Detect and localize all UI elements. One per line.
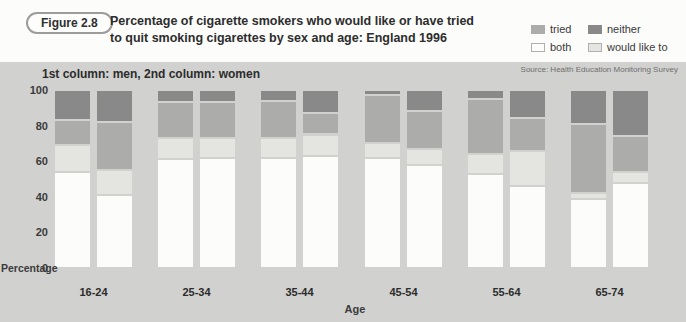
age-label-45-54: 45-54: [355, 286, 452, 298]
bar-men-45-54-tried-segment: [365, 96, 400, 142]
bar-women-16-24-both-segment: [97, 196, 132, 267]
age-label-35-44: 35-44: [251, 286, 348, 298]
bar-women-35-44-both-segment: [303, 157, 338, 267]
figure-title-line-1: Percentage of cigarette smokers who woul…: [110, 13, 474, 30]
tried-swatch-icon: [531, 25, 545, 34]
figure-label: Figure 2.8: [26, 12, 113, 34]
bar-women-25-34-neither-segment: [200, 91, 235, 101]
age-label-65-74: 65-74: [561, 286, 658, 298]
bar-men-65-74-would-like-to-segment: [571, 194, 606, 197]
figure-title-line-2: to quit smoking cigarettes by sex and ag…: [110, 30, 474, 47]
bar-men-45-54-neither-segment: [365, 91, 400, 94]
bar-women-16-24-tried-segment: [97, 123, 132, 169]
bar-women-16-24-neither-segment: [97, 91, 132, 121]
age-label-55-64: 55-64: [458, 286, 555, 298]
would-like-to-swatch-icon: [588, 43, 602, 52]
bar-men-65-74-both-segment: [571, 200, 606, 267]
bar-women-45-54-neither-segment: [407, 91, 442, 110]
age-label-25-34: 25-34: [148, 286, 245, 298]
bar-women-35-44-would-like-to-segment: [303, 136, 338, 155]
bar-men-35-44-would-like-to-segment: [261, 139, 296, 157]
bar-women-55-64-both-segment: [510, 187, 545, 267]
legend-item-would-like-to: would like to: [588, 41, 683, 53]
bar-men-35-44-both-segment: [261, 159, 296, 267]
bar-women-35-44-neither-segment: [303, 91, 338, 112]
bar-women-65-74-both-segment: [613, 184, 648, 267]
bar-men-25-34-neither-segment: [158, 91, 193, 101]
bar-men-45-54-both-segment: [365, 159, 400, 267]
legend-item-neither: neither: [588, 23, 683, 35]
bar-men-55-64-tried-segment: [468, 100, 503, 153]
bar-men-25-34-would-like-to-segment: [158, 139, 193, 158]
bar-men-16-24-tried-segment: [55, 121, 90, 144]
bar-women-25-34-both-segment: [200, 159, 235, 267]
bar-men-35-44-tried-segment: [261, 102, 296, 137]
legend-label-neither: neither: [607, 23, 641, 35]
bar-women-45-54-would-like-to-segment: [407, 150, 442, 164]
bar-women-45-54-both-segment: [407, 166, 442, 267]
legend-item-tried: tried: [531, 23, 588, 35]
bar-men-65-74-tried-segment: [571, 125, 606, 192]
legend-label-both: both: [550, 41, 571, 53]
legend-label-would-like-to: would like to: [607, 41, 668, 53]
bar-men-16-24-neither-segment: [55, 91, 90, 119]
bar-men-25-34-both-segment: [158, 160, 193, 267]
y-tick-label-40: 40: [8, 190, 48, 204]
bar-men-55-64-both-segment: [468, 175, 503, 267]
chart-panel: 1st column: men, 2nd column: women Sourc…: [0, 62, 686, 322]
bar-women-45-54-tried-segment: [407, 112, 442, 147]
bar-women-25-34-tried-segment: [200, 103, 235, 137]
bar-men-55-64-would-like-to-segment: [468, 155, 503, 173]
bar-men-45-54-would-like-to-segment: [365, 144, 400, 156]
bar-women-55-64-neither-segment: [510, 91, 545, 117]
bar-men-65-74-neither-segment: [571, 91, 606, 123]
legend-item-both: both: [531, 41, 588, 53]
bar-men-25-34-tried-segment: [158, 103, 193, 137]
bar-women-55-64-tried-segment: [510, 119, 545, 149]
y-tick-label-60: 60: [8, 154, 48, 168]
bar-men-35-44-neither-segment: [261, 91, 296, 100]
both-swatch-icon: [531, 43, 545, 52]
bar-women-25-34-would-like-to-segment: [200, 139, 235, 157]
bar-women-65-74-would-like-to-segment: [613, 173, 648, 182]
y-tick-label-20: 20: [8, 225, 48, 239]
figure-2-8: Figure 2.8 Percentage of cigarette smoke…: [0, 0, 686, 322]
bar-men-16-24-would-like-to-segment: [55, 146, 90, 171]
age-label-16-24: 16-24: [45, 286, 142, 298]
figure-title: Percentage of cigarette smokers who woul…: [110, 13, 474, 47]
bar-men-16-24-both-segment: [55, 173, 90, 267]
y-tick-label-100: 100: [8, 83, 48, 97]
bar-women-16-24-would-like-to-segment: [97, 171, 132, 194]
legend-label-tried: tried: [550, 23, 571, 35]
bar-women-65-74-neither-segment: [613, 91, 648, 135]
x-axis-title: Age: [325, 303, 385, 315]
plot-area: 10080604020016-2425-3435-4445-5455-6465-…: [0, 62, 686, 322]
bar-women-35-44-tried-segment: [303, 114, 338, 133]
bar-women-55-64-would-like-to-segment: [510, 152, 545, 186]
neither-swatch-icon: [588, 25, 602, 34]
figure-header: Figure 2.8 Percentage of cigarette smoke…: [0, 0, 686, 62]
y-axis-title: Percentage: [1, 261, 58, 275]
bar-women-65-74-tried-segment: [613, 137, 648, 171]
y-tick-label-80: 80: [8, 119, 48, 133]
legend: tried neither both would like to: [531, 23, 683, 53]
bar-men-55-64-neither-segment: [468, 91, 503, 98]
